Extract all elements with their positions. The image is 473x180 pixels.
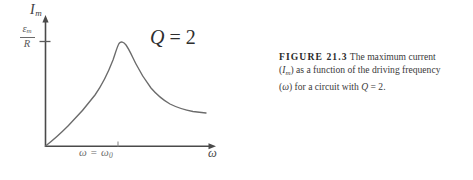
q-value-annotation: Q = 2 — [150, 26, 196, 49]
resonance-plot-panel: Im εm R ω = ω0 ω Q = 2 — [0, 0, 265, 180]
y-axis-label-subscript: m — [35, 8, 42, 18]
caption-symbol-omega: ω — [282, 81, 289, 92]
caption-line-3-text: ) for a circuit with — [289, 81, 361, 92]
y-axis-label: Im — [30, 3, 42, 18]
figure-caption: FIGURE 21.3 The maximum current (Im) as … — [279, 50, 473, 94]
y-axis-tick-label: εm R — [15, 24, 39, 49]
q-symbol: Q — [150, 26, 164, 48]
x-axis-tick-label: ω = ω0 — [79, 146, 113, 160]
resonance-curve-path — [46, 42, 207, 146]
y-tick-numerator: εm — [15, 24, 39, 36]
x-tick-label-text: ω = ω — [79, 146, 109, 158]
y-tick-numerator-subscript: m — [27, 27, 32, 35]
caption-line-3: (ω) for a circuit with Q = 2. — [279, 80, 473, 93]
figure-container: Im εm R ω = ω0 ω Q = 2 FIGURE 21.3 The m… — [0, 0, 473, 180]
y-tick-denominator: R — [15, 39, 39, 50]
caption-line-2-text: ) as a function of the driving frequency — [290, 64, 440, 75]
q-equals-value: = 2 — [164, 26, 195, 48]
y-axis-arrowhead — [42, 15, 48, 23]
x-tick-label-subscript: 0 — [109, 151, 113, 160]
figure-number-tag: FIGURE 21.3 — [279, 51, 348, 62]
y-axis-label-symbol: I — [30, 2, 35, 17]
resonance-curve-plot — [0, 0, 265, 180]
caption-line-3-end: = 2. — [368, 81, 385, 92]
x-axis-label: ω — [208, 147, 217, 160]
caption-line-2: (Im) as a function of the driving freque… — [279, 63, 473, 80]
caption-line-1: FIGURE 21.3 The maximum current — [279, 50, 473, 63]
caption-line-1-text: The maximum current — [350, 51, 436, 62]
